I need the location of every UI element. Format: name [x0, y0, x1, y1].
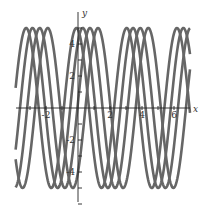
x-axis-label: x [193, 104, 198, 114]
chart: -2246-4-224xy [0, 0, 203, 211]
x-tick-label: 6 [171, 110, 177, 120]
x-tick-label: 2 [107, 110, 113, 120]
x-tick-label: 4 [139, 110, 145, 120]
y-tick-label: -2 [66, 135, 75, 145]
y-axis-label: y [81, 8, 88, 18]
y-tick-label: 2 [69, 71, 75, 81]
y-tick-label: 4 [69, 39, 75, 49]
x-tick-label: -2 [42, 110, 51, 120]
y-tick-label: -4 [66, 167, 75, 177]
